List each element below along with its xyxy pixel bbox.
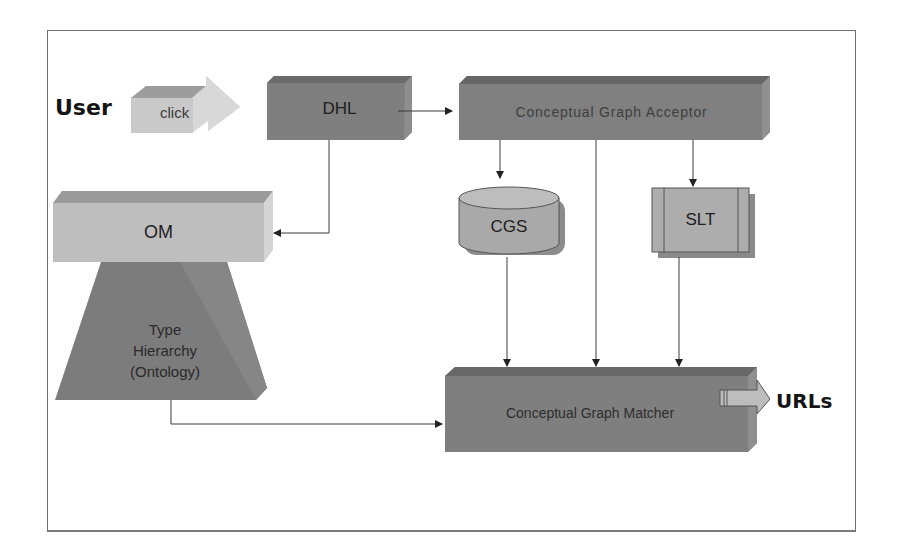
edge-dhl-om xyxy=(274,140,329,233)
type-hierarchy-box: Type Hierarchy (Ontology) xyxy=(90,319,240,382)
type-hierarchy-line3: (Ontology) xyxy=(90,361,240,382)
dhl-box: DHL xyxy=(267,99,412,119)
urls-label: URLs xyxy=(776,389,832,413)
edge-hierarchy-matcher xyxy=(171,400,442,424)
matcher-box: Conceptual Graph Matcher xyxy=(445,405,735,421)
diagram-canvas xyxy=(0,0,899,560)
type-hierarchy-line2: Hierarchy xyxy=(90,340,240,361)
type-hierarchy-line1: Type xyxy=(90,319,240,340)
om-box: OM xyxy=(53,222,264,243)
slt-node: SLT xyxy=(652,210,749,230)
acceptor-box: Conceptual Graph Acceptor xyxy=(459,104,764,120)
click-label: click xyxy=(160,104,189,121)
user-label: User xyxy=(55,95,112,120)
cgs-node: CGS xyxy=(459,217,559,237)
